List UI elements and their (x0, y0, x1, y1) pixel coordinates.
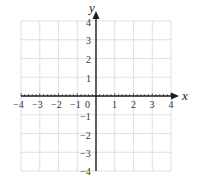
x-tick-label: −2 (51, 99, 62, 110)
y-tick-label: 3 (86, 35, 91, 46)
y-tick-label: 2 (86, 54, 91, 65)
y-tick-label: 4 (86, 17, 91, 28)
x-tick-label: −1 (70, 99, 81, 110)
coordinate-plane: x y −4 −3 −2 −1 0 1 2 3 4 4 3 2 1 −1 −2 … (0, 0, 200, 189)
origin-label: 0 (85, 99, 90, 110)
x-tick-label: −3 (32, 99, 43, 110)
x-tick-label: 4 (169, 99, 174, 110)
x-tick-label: 3 (150, 99, 155, 110)
x-tick-label: 2 (131, 99, 136, 110)
y-tick-labels: 4 3 2 1 −1 −2 −3 −4 (80, 17, 91, 177)
x-tick-labels: −4 −3 −2 −1 0 1 2 3 4 (13, 99, 174, 110)
x-tick-label: 1 (112, 99, 117, 110)
y-tick-label: −2 (80, 130, 91, 141)
x-tick-label: −4 (13, 99, 24, 110)
y-tick-label: 1 (86, 73, 91, 84)
y-tick-label: −4 (80, 166, 91, 177)
y-tick-label: −3 (80, 148, 91, 159)
x-axis-label: x (181, 88, 188, 103)
y-tick-label: −1 (80, 111, 91, 122)
y-axis-label: y (87, 0, 95, 15)
